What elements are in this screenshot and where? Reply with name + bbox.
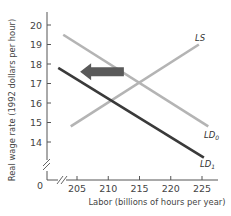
y-axis-title: Real wage rate (1992 dollars per hour): [7, 19, 17, 181]
y-axis-break-mark-1: [43, 159, 50, 166]
y-tick-label: 17: [30, 78, 42, 89]
x-tick-label: 225: [193, 183, 211, 194]
ls-label-text: LS: [195, 33, 206, 43]
x-axis-ticks: 205210215220225: [68, 176, 211, 194]
ld1-label-text: LD: [200, 159, 212, 169]
y-tick-label: 18: [30, 59, 42, 70]
x-tick-label: 215: [130, 183, 148, 194]
curve-label-ld0: LD0: [204, 130, 219, 141]
labor-market-chart: Real wage rate (1992 dollars per hour) 1…: [0, 0, 231, 216]
origin-label: 0: [37, 180, 43, 191]
y-tick-label: 19: [30, 39, 42, 50]
ld1-label-subscript: 1: [211, 163, 215, 170]
curve-label-ld1: LD1: [200, 159, 215, 170]
shift-left-arrow-icon: [80, 63, 124, 80]
y-tick-label: 16: [30, 98, 42, 109]
y-axis-break-mark-2: [43, 163, 50, 170]
y-axis-ticks: 14151617181920: [30, 20, 51, 148]
curves: [58, 35, 208, 158]
x-axis-title: Labor (billions of hours per year): [88, 197, 225, 207]
x-tick-label: 205: [68, 183, 86, 194]
ld0-label-text: LD: [204, 130, 216, 140]
x-tick-label: 220: [162, 183, 180, 194]
y-tick-label: 20: [30, 20, 42, 31]
y-tick-label: 15: [30, 117, 42, 128]
arrow-shape: [80, 63, 124, 80]
x-tick-label: 210: [99, 183, 117, 194]
curve-ld0: [63, 35, 208, 127]
ld0-label-subscript: 0: [215, 134, 219, 141]
y-tick-label: 14: [30, 137, 42, 148]
curve-label-ls: LS: [195, 33, 206, 43]
curve-ld1: [58, 68, 204, 158]
